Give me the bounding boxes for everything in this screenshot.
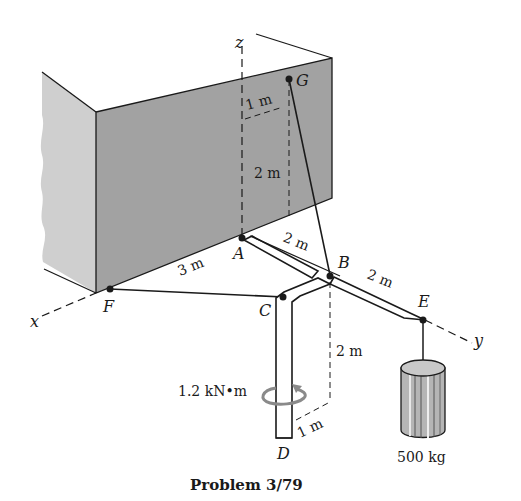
point-d-label: D (276, 444, 290, 463)
wall-front-face (96, 58, 332, 293)
point-a-label: A (231, 244, 245, 263)
moment-label: 1.2 kN•m (178, 383, 247, 399)
problem-title: Problem 3/79 (190, 476, 303, 494)
y-axis-label: y (473, 331, 484, 350)
y-axis (425, 320, 472, 343)
x-axis (42, 293, 96, 316)
point-f (107, 286, 114, 293)
point-g-label: G (296, 71, 309, 90)
z-axis-label: z (234, 33, 244, 52)
point-c-label: C (259, 301, 271, 320)
g-height-label: 2 m (254, 165, 281, 181)
b-drop-label: 2 m (336, 343, 363, 359)
point-c (280, 294, 287, 301)
x-axis-label: x (30, 312, 39, 331)
point-e (420, 317, 427, 324)
point-b (327, 273, 334, 280)
pipe-bcd (276, 278, 330, 438)
point-g (286, 76, 293, 83)
cable-fc (110, 289, 284, 297)
wall-top-back-edge (256, 34, 332, 58)
point-f-label: F (102, 297, 115, 316)
be-length-label: 2 m (365, 266, 396, 291)
mass-label: 500 kg (397, 449, 446, 465)
point-b-label: B (337, 253, 350, 272)
point-a (239, 235, 246, 242)
statics-diagram: z 1 m 2 m x y 2 m 1 m 1.2 kN•m (0, 0, 521, 501)
point-e-label: E (417, 292, 430, 311)
ab-length-label: 2 m (281, 229, 312, 254)
mass-cylinder (401, 360, 445, 438)
